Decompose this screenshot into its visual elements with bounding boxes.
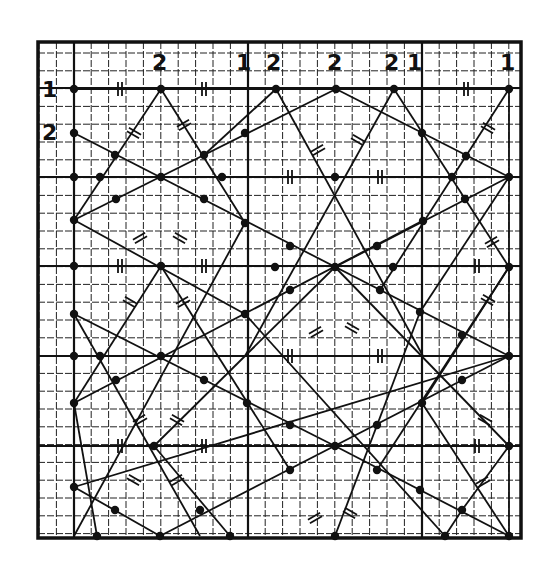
vertex-label: 2	[266, 50, 281, 75]
vertex-dot	[70, 216, 78, 224]
geometric-grid-diagram: 122122211	[0, 0, 548, 575]
vertex-dot	[70, 310, 78, 318]
vertex-dot	[150, 442, 158, 450]
vertex-dot	[418, 399, 426, 407]
vertex-dot	[272, 85, 280, 93]
vertex-label: 1	[407, 50, 422, 75]
vertex-dot	[505, 352, 513, 360]
vertex-dot	[458, 506, 466, 514]
vertex-dot	[331, 173, 339, 181]
vertex-dot	[157, 262, 165, 270]
vertex-dot	[196, 506, 204, 514]
vertex-dot	[286, 421, 294, 429]
vertex-dot	[505, 442, 513, 450]
vertex-dot	[416, 486, 424, 494]
vertex-dot	[218, 173, 226, 181]
vertex-dot	[96, 173, 104, 181]
vertex-dot	[70, 85, 78, 93]
vertex-dot	[70, 399, 78, 407]
vertex-dot	[373, 421, 381, 429]
vertex-dot	[200, 151, 208, 159]
vertex-dot	[157, 352, 165, 360]
vertex-dot	[200, 195, 208, 203]
vertex-dot	[200, 376, 208, 384]
vertex-dot	[505, 263, 513, 271]
vertex-dot	[70, 262, 78, 270]
vertex-dot	[70, 352, 78, 360]
vertex-dot	[505, 85, 513, 93]
vertex-dot	[331, 442, 339, 450]
vertex-dot	[389, 263, 397, 271]
vertex-dot	[241, 219, 249, 227]
vertex-dot	[112, 195, 120, 203]
vertex-dot	[505, 173, 513, 181]
vertex-dot	[331, 263, 339, 271]
vertex-label: 1	[236, 50, 251, 75]
vertex-dot	[286, 466, 294, 474]
vertex-dot	[111, 506, 119, 514]
vertex-label: 2	[327, 50, 342, 75]
vertex-dot	[332, 85, 340, 93]
vertex-dot	[376, 286, 384, 294]
vertex-dot	[70, 129, 78, 137]
vertex-dot	[373, 242, 381, 250]
vertex-dot	[419, 217, 427, 225]
vertex-dot	[243, 399, 251, 407]
vertex-dot	[448, 173, 456, 181]
vertex-dot	[458, 331, 466, 339]
vertex-dot	[241, 129, 249, 137]
vertex-dot	[157, 85, 165, 93]
vertex-dot	[458, 376, 466, 384]
vertex-dot	[416, 308, 424, 316]
vertex-label: 2	[42, 120, 57, 145]
vertex-dot	[70, 483, 78, 491]
vertex-dot	[286, 242, 294, 250]
vertex-dot	[373, 466, 381, 474]
vertex-dot	[462, 152, 470, 160]
vertex-dot	[157, 173, 165, 181]
vertex-dot	[390, 85, 398, 93]
vertex-dot	[111, 151, 119, 159]
vertex-dot	[271, 263, 279, 271]
vertex-label: 2	[384, 50, 399, 75]
vertex-label: 2	[152, 50, 167, 75]
vertex-dot	[112, 376, 120, 384]
vertex-dot	[70, 173, 78, 181]
vertex-label: 1	[500, 50, 515, 75]
vertex-dot	[241, 310, 249, 318]
vertex-dot	[286, 286, 294, 294]
vertex-dot	[461, 195, 469, 203]
vertex-dot	[418, 129, 426, 137]
vertex-dot	[96, 352, 104, 360]
vertex-label: 1	[42, 77, 57, 102]
